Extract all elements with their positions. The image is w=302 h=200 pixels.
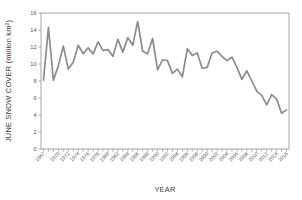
x-axis-title: YEAR (154, 185, 175, 194)
snow-cover-series-line (43, 22, 286, 114)
y-tick-label: 2 (33, 129, 36, 135)
x-tick-label: 1967 (34, 150, 46, 162)
snow-cover-line-chart: 0246810121416 19671970197219741976197819… (0, 0, 302, 200)
y-tick-label: 8 (33, 78, 36, 84)
y-axis-ticks: 0246810121416 (30, 10, 41, 152)
y-tick-label: 14 (30, 27, 36, 33)
y-tick-label: 10 (30, 61, 36, 67)
chart-figure: 0246810121416 19671970197219741976197819… (0, 0, 302, 200)
y-tick-label: 0 (33, 146, 36, 152)
y-tick-label: 6 (33, 95, 36, 101)
x-tick-label: 2016 (277, 150, 289, 162)
y-tick-label: 4 (33, 112, 36, 118)
x-axis-tick-labels: 1967197019721974197619781980198219841986… (34, 150, 289, 162)
y-axis-title: JUNE SNOW COVER (million km²) (4, 20, 13, 142)
y-tick-label: 12 (30, 44, 36, 50)
y-tick-label: 16 (30, 10, 36, 16)
